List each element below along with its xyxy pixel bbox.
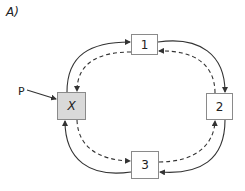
node-2: 2 (206, 93, 233, 120)
node-x: X (57, 92, 86, 120)
edge-3-to-x (65, 121, 131, 173)
edge-x-to-3 (77, 120, 130, 161)
edge-1-to-2 (158, 41, 225, 92)
panel-label: A) (6, 5, 19, 19)
pointer-label: P (18, 85, 25, 98)
edge-1-to-x (77, 52, 131, 91)
pointer-arrow (27, 90, 56, 99)
edge-x-to-1 (67, 42, 130, 92)
node-3: 3 (131, 151, 159, 179)
edge-2-to-3 (160, 120, 225, 172)
edge-2-to-1 (159, 51, 215, 93)
node-1: 1 (131, 34, 158, 55)
edge-3-to-2 (159, 121, 215, 162)
